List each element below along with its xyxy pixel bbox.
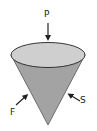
force-s-label: S [80,96,86,105]
cone-top-face [11,43,85,68]
force-p-label: P [44,10,49,19]
force-f-arrow-icon [16,96,26,105]
cone-force-diagram: P F S [0,0,97,131]
force-f-label: F [10,108,15,117]
force-s-arrow-icon [70,95,80,101]
